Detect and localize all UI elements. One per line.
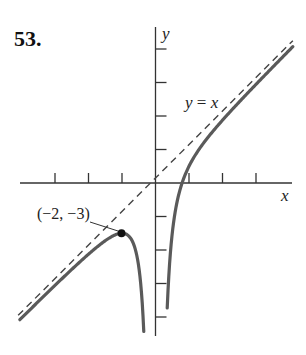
point-label: (−2, −3): [37, 205, 90, 223]
axes: [20, 27, 292, 336]
curve-right-branch: [167, 47, 293, 308]
graph-figure: 53. x y y = x (−2, −3): [0, 0, 306, 355]
x-axis-label: x: [280, 186, 289, 205]
problem-number: 53.: [14, 26, 42, 51]
y-axis-label: y: [160, 24, 170, 43]
local-max-point: [118, 229, 126, 237]
asymptote-label: y = x: [183, 93, 219, 112]
curve-left-branch: [20, 233, 144, 331]
